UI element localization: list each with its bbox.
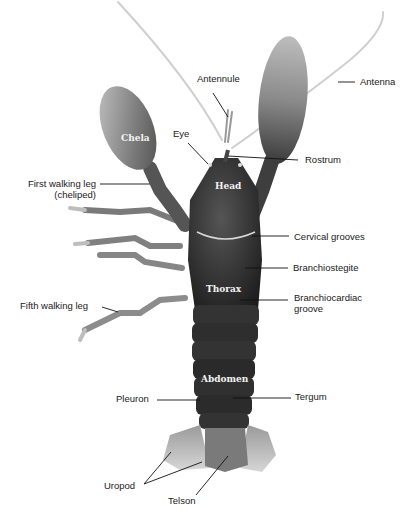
label-branchiocardiac-line2: groove: [294, 303, 362, 314]
label-antennule: Antennule: [197, 73, 240, 84]
label-branchiostegite: Branchiostegite: [293, 262, 358, 273]
label-thorax: Thorax: [206, 284, 241, 294]
right-cheliped: [252, 34, 314, 215]
label-fifth-walking-leg: Fifth walking leg: [20, 300, 88, 311]
label-first-walking-leg-line1: First walking leg: [14, 178, 96, 189]
label-pleuron: Pleuron: [116, 393, 149, 404]
label-first-walking-leg-line2: (cheliped): [14, 189, 96, 200]
label-telson: Telson: [168, 495, 195, 506]
label-first-walking-leg: First walking leg (cheliped): [14, 178, 96, 200]
label-abdomen: Abdomen: [201, 374, 248, 384]
walking-legs: [70, 208, 185, 340]
label-cervical-grooves: Cervical grooves: [294, 231, 365, 242]
label-rostrum: Rostrum: [305, 154, 341, 165]
label-chela: Chela: [121, 133, 150, 143]
label-eye: Eye: [173, 128, 189, 139]
label-branchiocardiac-groove: Branchiocardiac groove: [294, 292, 362, 314]
label-branchiocardiac-line1: Branchiocardiac: [294, 292, 362, 303]
tail-fan: [163, 425, 276, 472]
abdomen: [192, 305, 259, 429]
label-uropod: Uropod: [104, 480, 135, 491]
left-cheliped: [88, 78, 185, 225]
label-antenna: Antenna: [360, 76, 395, 87]
antennae: [118, 2, 383, 148]
label-head: Head: [215, 181, 241, 191]
label-tergum: Tergum: [295, 391, 327, 402]
